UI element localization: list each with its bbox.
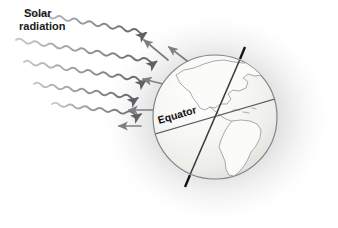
solar-radiation-label: Solar radiation: [19, 7, 66, 32]
solar-radiation-label-line2: radiation: [19, 20, 66, 32]
solar-radiation-label-line1: Solar: [24, 7, 52, 19]
solar-radiation-diagram: Equator Solar radiation: [0, 0, 338, 228]
